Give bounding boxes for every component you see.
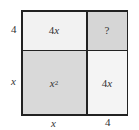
cell-var: x	[50, 77, 55, 89]
cell-var: x	[54, 24, 59, 36]
side-label-bottom-right: 4	[105, 116, 111, 128]
cell-bottom-right-4x: 4x	[87, 50, 127, 115]
inner-divider-horizontal	[21, 50, 128, 52]
unknown-label: ?	[105, 24, 110, 36]
cell-top-left-4x: 4x	[21, 10, 87, 50]
outer-border-left	[21, 10, 23, 116]
area-model-diagram: 4x ? x2 4x 4 x x 4	[0, 0, 139, 130]
cell-top-right-unknown: ?	[87, 10, 127, 50]
cell-bottom-left-x-squared: x2	[21, 50, 87, 115]
outer-border-right	[127, 10, 129, 116]
inner-divider-vertical	[86, 10, 88, 115]
side-label-left-top: 4	[11, 23, 17, 35]
side-label-left-bottom: x	[11, 75, 16, 87]
outer-border-top	[21, 10, 128, 12]
cell-var: x	[107, 77, 112, 89]
side-label-bottom-left: x	[51, 117, 56, 129]
outer-border-bottom	[21, 114, 128, 116]
